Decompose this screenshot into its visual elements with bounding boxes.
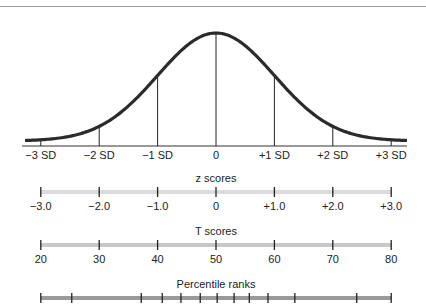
t-score-label: 80 (385, 253, 397, 265)
z-score-label: +3.0 (380, 200, 402, 212)
z-score-label: −2.0 (88, 200, 110, 212)
normal-distribution-figure: −3 SD−2 SD−1 SD0+1 SD+2 SD+3 SD z scores… (0, 0, 426, 306)
t-scores-title: T scores (195, 225, 237, 237)
percentile-ranks-title: Percentile ranks (177, 278, 256, 290)
t-score-label: 40 (151, 253, 163, 265)
z-scores-title: z scores (196, 172, 237, 184)
t-score-label: 70 (327, 253, 339, 265)
sd-label: 0 (213, 149, 219, 161)
sd-label: +1 SD (259, 149, 290, 161)
sd-label: +2 SD (317, 149, 348, 161)
sd-label: −1 SD (142, 149, 173, 161)
t-score-label: 50 (210, 253, 222, 265)
scale-bar (41, 296, 391, 300)
z-score-label: −3.0 (30, 200, 52, 212)
z-score-label: +2.0 (322, 200, 344, 212)
sd-label: +3 SD (376, 149, 407, 161)
z-score-label: 0 (213, 200, 219, 212)
t-score-label: 60 (268, 253, 280, 265)
sd-label: −2 SD (84, 149, 115, 161)
t-score-label: 20 (35, 253, 47, 265)
z-score-label: +1.0 (264, 200, 286, 212)
sd-label: −3 SD (25, 149, 56, 161)
t-score-label: 30 (93, 253, 105, 265)
z-score-label: −1.0 (147, 200, 169, 212)
